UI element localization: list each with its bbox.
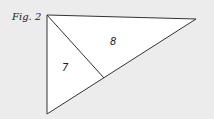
- triangle-diagram: 7 8: [0, 0, 214, 119]
- outer-triangle: [47, 15, 196, 114]
- region-label-7: 7: [62, 62, 69, 73]
- region-label-8: 8: [110, 36, 116, 47]
